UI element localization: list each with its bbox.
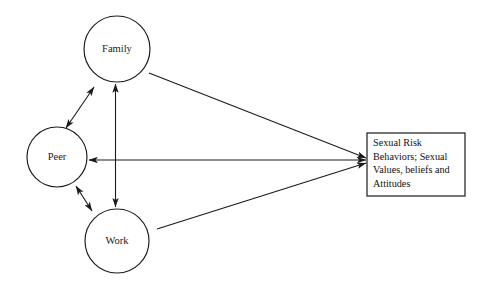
outcome-line-1: Sexual Risk (373, 137, 423, 148)
outcome-node[interactable]: Sexual Risk Behaviors; Sexual Values, be… (367, 133, 465, 196)
diagram-canvas: Family Peer Work Sexual Risk Behaviors; … (0, 0, 483, 289)
node-family[interactable]: Family (84, 16, 150, 82)
work-label: Work (105, 235, 129, 246)
outcome-line-3: Values, beliefs and (373, 164, 450, 175)
edge-family-peer (66, 87, 94, 128)
node-work[interactable]: Work (85, 209, 149, 273)
edge-group (66, 73, 366, 229)
outcome-line-2: Behaviors; Sexual (373, 151, 448, 162)
edge-work-outcome (157, 163, 366, 229)
family-label: Family (102, 43, 133, 54)
edge-family-outcome (149, 73, 366, 158)
node-peer[interactable]: Peer (27, 127, 87, 187)
conceptual-model-diagram: Family Peer Work Sexual Risk Behaviors; … (0, 0, 483, 289)
edge-peer-work (76, 186, 92, 211)
outcome-line-4: Attitudes (373, 178, 410, 189)
peer-label: Peer (48, 151, 67, 162)
